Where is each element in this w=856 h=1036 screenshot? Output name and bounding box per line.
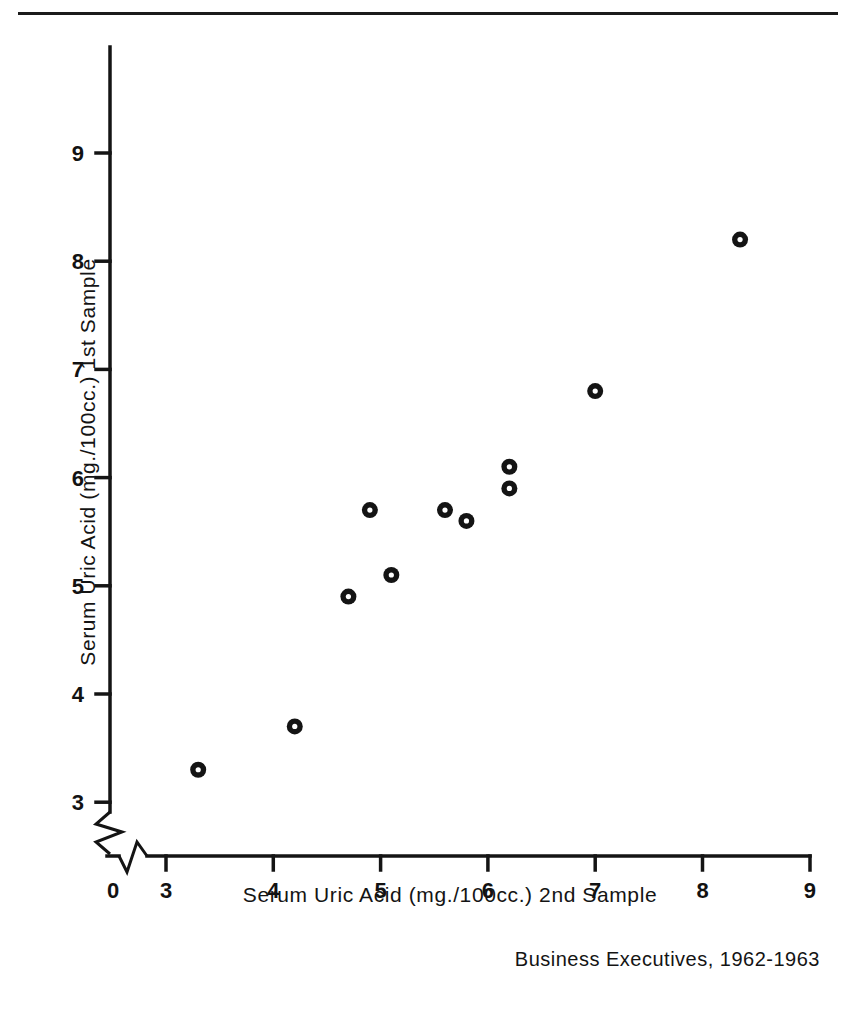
scatter-plot-figure: 034567893456789 Serum Uric Acid (mg./100… [0,0,856,1036]
plot-canvas: 034567893456789 [0,0,856,1036]
ticks-group: 034567893456789 [72,141,816,903]
data-point-center [292,724,297,729]
x-axis-break [119,842,147,872]
x-tick-label-9: 9 [804,878,816,903]
data-point [501,459,517,475]
data-point [190,762,206,778]
data-point-center [367,507,372,512]
data-point-center [346,594,351,599]
data-point [340,589,356,605]
x-axis-title: Serum Uric Acid (mg./100cc.) 2nd Sample [120,883,780,907]
data-point-center [593,388,598,393]
y-tick-label-3: 3 [72,790,84,815]
x-tick-label-0: 0 [107,878,119,903]
data-points-group [190,232,748,778]
data-point-center [507,486,512,491]
data-point-center [442,507,447,512]
data-point-center [737,237,742,242]
y-axis-title: Serum Uric Acid (mg./100cc.) 1st Sample [76,142,100,782]
y-axis-break [96,812,122,854]
data-point-center [196,767,201,772]
data-point-center [464,518,469,523]
data-point-center [507,464,512,469]
data-point [501,480,517,496]
data-point [287,718,303,734]
figure-caption: Business Executives, 1962-1963 [300,948,820,971]
data-point-center [389,572,394,577]
axes-group [96,47,810,872]
data-point [362,502,378,518]
data-point [587,383,603,399]
data-point [732,232,748,248]
data-point [458,513,474,529]
data-point [383,567,399,583]
data-point [437,502,453,518]
